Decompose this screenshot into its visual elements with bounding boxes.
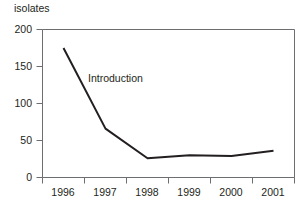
y-axis-ticks xyxy=(37,30,43,178)
y-tick-label-50: 50 xyxy=(20,134,32,146)
x-tick-label-2000: 2000 xyxy=(219,186,243,198)
x-axis-ticks xyxy=(43,178,295,184)
x-axis-tick-labels: 1996 1997 1998 1999 2000 2001 xyxy=(51,186,285,198)
x-tick-label-2001: 2001 xyxy=(261,186,285,198)
line-chart-plot: 200 150 100 50 0 1996 1997 1998 1999 200… xyxy=(0,0,304,208)
annotation-introduction: Introduction xyxy=(88,72,143,84)
y-axis-tick-labels: 200 150 100 50 0 xyxy=(14,23,32,183)
x-tick-label-1996: 1996 xyxy=(51,186,75,198)
y-tick-label-100: 100 xyxy=(14,97,32,109)
data-series-line xyxy=(64,48,274,158)
y-tick-label-200: 200 xyxy=(14,23,32,35)
x-tick-label-1998: 1998 xyxy=(135,186,159,198)
y-tick-label-150: 150 xyxy=(14,60,32,72)
y-tick-label-0: 0 xyxy=(26,171,32,183)
x-tick-label-1997: 1997 xyxy=(93,186,117,198)
x-tick-label-1999: 1999 xyxy=(177,186,201,198)
chart-figure: isolates 200 150 100 50 0 xyxy=(0,0,304,208)
plot-frame xyxy=(43,30,295,178)
